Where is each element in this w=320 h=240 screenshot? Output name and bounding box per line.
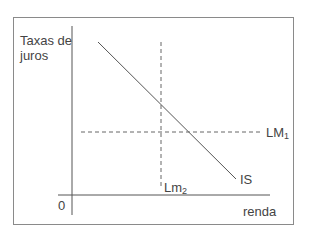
is-label: IS (240, 172, 252, 187)
origin-label: 0 (58, 198, 65, 213)
lm2-label-base: Lm (164, 180, 182, 195)
lm2-label-sub: 2 (182, 186, 187, 196)
x-axis-label: renda (243, 204, 276, 219)
y-axis-label-line1: Taxas de (20, 33, 72, 48)
lm1-label-base: LM (266, 125, 284, 140)
lm1-label-sub: 1 (284, 131, 289, 141)
lm1-label: LM1 (266, 125, 289, 140)
is-curve (98, 42, 236, 179)
lm2-label: Lm2 (164, 180, 187, 195)
y-axis-label-line2: juros (20, 48, 48, 63)
